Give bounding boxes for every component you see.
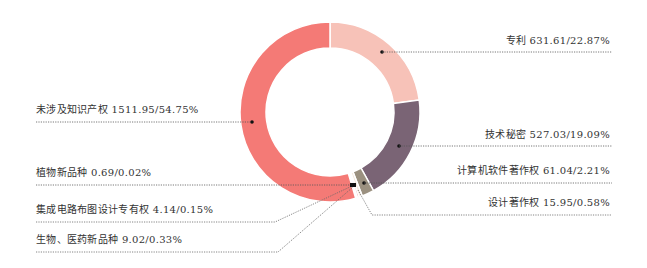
label-bio-pharma: 生物、医药新品种 9.02/0.33% bbox=[36, 231, 182, 246]
label-patent: 专利 631.61/22.87% bbox=[506, 32, 610, 47]
label-design-copyright: 设计著作权 15.95/0.58% bbox=[488, 194, 610, 209]
label-ic-layout: 集成电路布图设计专有权 4.14/0.15% bbox=[36, 201, 213, 216]
slice-1 bbox=[361, 100, 420, 191]
small-slice-marker bbox=[350, 183, 356, 187]
label-no-ip: 未涉及知识产权 1511.95/54.75% bbox=[36, 101, 199, 116]
slice-0 bbox=[330, 22, 419, 103]
label-trade-secret: 技术秘密 527.03/19.09% bbox=[485, 126, 610, 141]
label-plant-variety: 植物新品种 0.69/0.02% bbox=[36, 164, 151, 179]
label-software-copyright: 计算机软件著作权 61.04/2.21% bbox=[457, 162, 610, 177]
